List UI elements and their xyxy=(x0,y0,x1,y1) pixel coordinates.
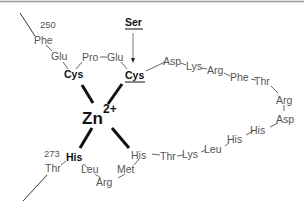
residue-arg: Arg xyxy=(207,64,224,76)
residue-number-273: 273 xyxy=(44,148,60,159)
residue-asp: Asp xyxy=(163,55,181,67)
residue-glu: Glu xyxy=(107,51,124,63)
residue-his: His xyxy=(227,133,242,145)
residue-arg: Arg xyxy=(96,176,113,188)
residue-lys: Lys xyxy=(182,148,198,160)
residue-pro: Pro xyxy=(82,51,99,63)
ligand-cys-1: Cys xyxy=(64,68,83,80)
residue-thr: Thr xyxy=(254,75,270,87)
residue-arg: Arg xyxy=(276,94,293,106)
residue-phe: Phe xyxy=(34,34,53,46)
zinc-charge: 2+ xyxy=(103,102,117,116)
n-terminal-chain xyxy=(20,13,35,36)
residue-asp: Asp xyxy=(276,113,294,125)
ligand-cys-2: Cys xyxy=(125,69,144,81)
residue-number-250: 250 xyxy=(40,19,56,30)
residue-glu: Glu xyxy=(51,50,68,62)
zinc-ion: Zn xyxy=(82,109,103,128)
c-terminal-chain xyxy=(23,175,47,201)
zinc-finger-diagram: 250 273 Phe Glu Cys Pro Glu Ser Cys Asp … xyxy=(0,0,304,209)
residue-his: His xyxy=(250,124,265,136)
residue-thr: Thr xyxy=(160,150,176,162)
ligand-his-2: His xyxy=(131,149,146,161)
residue-thr-273: Thr xyxy=(45,162,61,174)
mutation-arrow xyxy=(131,33,135,63)
residue-leu: Leu xyxy=(81,163,99,175)
mutation-label-ser: Ser xyxy=(125,16,142,28)
residue-phe: Phe xyxy=(230,71,249,83)
residue-leu: Leu xyxy=(204,143,222,155)
ligand-his-1: His xyxy=(66,151,83,163)
residue-lys: Lys xyxy=(186,60,202,72)
residue-met: Met xyxy=(117,163,135,175)
